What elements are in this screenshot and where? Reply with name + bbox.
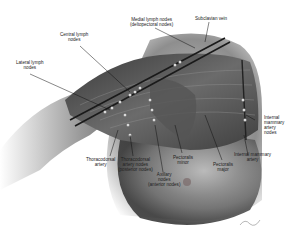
label-pectoralis-major: Pectoralismajor — [213, 162, 233, 172]
signature-icon — [240, 220, 260, 225]
label-medial-lymph-nodes: Medial lymph nodes(deltopectoral nodes) — [130, 17, 173, 27]
breast-lymphatics-illustration — [0, 0, 301, 237]
label-axillary-nodes: Axillarynodes(anterior nodes) — [148, 172, 180, 187]
label-pectoralis-minor: Pectoralisminor — [173, 155, 193, 165]
label-central-lymph-nodes: Central lymphnodes — [60, 32, 88, 42]
anatomy-diagram: Medial lymph nodes(deltopectoral nodes) … — [0, 0, 301, 237]
label-thoracodorsal-artery: Thoracodorsalartery — [86, 157, 115, 167]
label-lateral-lymph-nodes: Lateral lymphnodes — [16, 60, 44, 70]
label-thoracodorsal-nodes: Thoracodorsalartery nodes(posterior node… — [118, 157, 153, 172]
label-internal-mammary-artery: Internal mammaryartery — [234, 152, 271, 162]
label-internal-mammary-nodes: Internalmammaryarterynodes — [264, 115, 284, 135]
label-subclavian-vein: Subclavian vein — [195, 16, 227, 21]
